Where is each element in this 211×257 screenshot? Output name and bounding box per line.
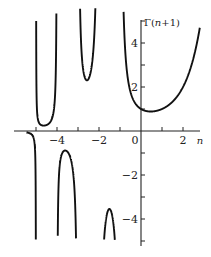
y-tick-label: −2 [122,169,138,182]
curve-branch-neg2-neg3 [80,8,95,80]
y-tick-label: 2 [131,81,138,94]
x-tick-label: −4 [49,134,65,147]
y-axis-title: Γ(n+1) [144,17,180,28]
y-axis-title-part: +1) [161,17,180,28]
curve-branch-neg1-neg2 [104,209,115,240]
curve-branch-neg4-neg5 [36,14,56,126]
x-tick-label: −2 [91,134,107,147]
y-tick-label: −4 [122,213,138,226]
curve-branch-neg3-neg4 [58,151,76,239]
gamma-function-chart: −4−20242−2−4nΓ(n+1) [0,0,211,257]
x-tick-label: 0 [132,134,139,147]
x-tick-label: 2 [180,134,187,147]
y-tick-label: 4 [131,37,138,50]
curve-branch-left-of-neg5 [27,132,36,239]
curves [27,8,200,240]
y-axis-title-part: Γ( [144,17,155,28]
labels: −4−20242−2−4nΓ(n+1) [49,17,203,226]
x-axis-title: n [197,135,203,146]
